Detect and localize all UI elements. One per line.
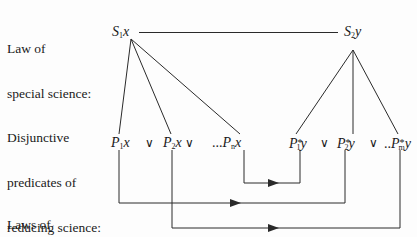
s2-to-qm-line <box>353 50 398 134</box>
s2-to-q1-line <box>296 50 353 134</box>
or-operator: ∨ <box>145 135 154 151</box>
s1-to-p1-line <box>119 39 131 134</box>
node-pnx: ...Pnx <box>212 135 241 155</box>
arrow-head-icon <box>268 179 279 187</box>
node-p2star-y: P*2y <box>337 135 355 156</box>
label-line: Law of <box>7 41 91 56</box>
node-pmstar-y: ..P*my <box>384 135 411 156</box>
node-p1x: P1x <box>111 135 130 155</box>
p1-to-q2-law <box>119 150 345 203</box>
label-line: Disjunctive <box>7 130 101 145</box>
node-s1x: S1x <box>112 24 129 44</box>
or-operator: ∨ <box>320 135 329 151</box>
arrow-head-icon <box>230 199 241 207</box>
reduction-diagram: Law of special science: Disjunctive pred… <box>0 0 417 237</box>
label-line: special science: <box>7 86 91 101</box>
label-laws-reducing: Laws of reducing science: <box>7 187 101 237</box>
arrow-head-icon <box>268 224 279 232</box>
or-operator: ∨ <box>185 135 194 151</box>
s1-to-p2-line <box>131 39 171 134</box>
node-s2y: S2y <box>344 24 361 44</box>
p2-to-qm-law <box>172 150 400 228</box>
or-operator: ∨ <box>369 135 378 151</box>
node-p2x: P2x <box>163 135 182 155</box>
s1-to-pn-line <box>131 39 240 134</box>
node-p1star-y: P*1y <box>289 135 307 156</box>
label-line: Laws of <box>7 217 101 232</box>
